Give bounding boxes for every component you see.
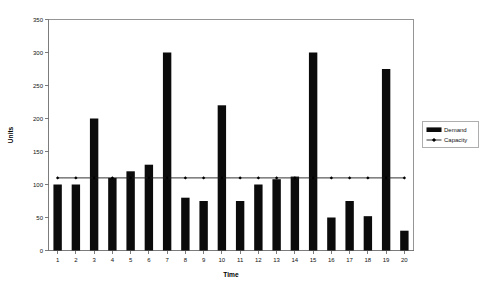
capacity-marker	[202, 176, 205, 179]
x-tick-label: 11	[237, 257, 244, 263]
x-tick-label: 10	[219, 257, 226, 263]
capacity-marker	[366, 176, 369, 179]
bar-demand	[181, 198, 189, 251]
x-tick-label: 7	[165, 257, 169, 263]
x-tick-label: 6	[147, 257, 151, 263]
bar-demand	[72, 185, 80, 251]
y-tick-label: 100	[33, 182, 44, 188]
y-axis: 050100150200250300350	[33, 17, 49, 254]
x-tick-label: 12	[255, 257, 262, 263]
demand-capacity-chart: 050100150200250300350Units12345678910111…	[0, 0, 491, 291]
y-tick-label: 250	[33, 83, 44, 89]
legend-label-capacity: Capacity	[444, 137, 467, 143]
bar-demand	[382, 69, 390, 251]
demand-bars	[53, 53, 408, 251]
capacity-marker	[238, 176, 241, 179]
bar-demand	[126, 171, 134, 250]
legend-swatch-demand	[427, 127, 442, 132]
capacity-marker	[330, 176, 333, 179]
bar-demand	[163, 53, 171, 251]
x-axis: 1234567891011121314151617181920	[56, 251, 408, 264]
y-tick-label: 350	[33, 17, 44, 23]
plot-border	[49, 20, 414, 251]
x-tick-label: 15	[310, 257, 317, 263]
legend-box	[423, 122, 479, 148]
capacity-marker	[275, 176, 278, 179]
x-tick-label: 14	[292, 257, 299, 263]
bar-demand	[345, 201, 353, 251]
bar-demand	[327, 218, 335, 251]
y-tick-label: 50	[36, 215, 43, 221]
bar-demand	[309, 53, 317, 251]
y-tick-label: 150	[33, 149, 44, 155]
y-tick-label: 300	[33, 50, 44, 56]
bar-demand	[400, 231, 408, 251]
bar-demand	[90, 119, 98, 251]
x-tick-label: 19	[383, 257, 390, 263]
x-tick-label: 16	[328, 257, 335, 263]
chart-legend: DemandCapacity	[423, 122, 479, 148]
bar-demand	[272, 179, 280, 250]
x-tick-label: 4	[111, 257, 115, 263]
x-tick-label: 9	[202, 257, 206, 263]
bar-demand	[364, 216, 372, 250]
x-tick-label: 8	[184, 257, 188, 263]
x-tick-label: 2	[74, 257, 78, 263]
bar-demand	[291, 177, 299, 251]
y-tick-label: 200	[33, 116, 44, 122]
capacity-marker	[348, 176, 351, 179]
x-tick-label: 20	[401, 257, 408, 263]
capacity-marker	[74, 176, 77, 179]
x-tick-label: 13	[273, 257, 280, 263]
x-tick-label: 3	[92, 257, 96, 263]
x-tick-label: 18	[365, 257, 372, 263]
capacity-marker	[56, 176, 59, 179]
chart-container: 050100150200250300350Units12345678910111…	[0, 0, 491, 291]
bar-demand	[254, 185, 262, 251]
legend-label-demand: Demand	[444, 127, 467, 133]
y-tick-label: 0	[40, 248, 44, 254]
x-tick-label: 5	[129, 257, 133, 263]
bar-demand	[108, 178, 116, 251]
y-axis-title: Units	[7, 126, 14, 143]
capacity-marker	[403, 176, 406, 179]
bar-demand	[199, 201, 207, 251]
bar-demand	[236, 201, 244, 251]
bar-demand	[53, 185, 61, 251]
x-tick-label: 1	[56, 257, 60, 263]
capacity-marker	[257, 176, 260, 179]
capacity-marker	[184, 176, 187, 179]
x-axis-title: Time	[223, 271, 239, 278]
x-tick-label: 17	[346, 257, 353, 263]
plot-frame	[49, 20, 414, 251]
